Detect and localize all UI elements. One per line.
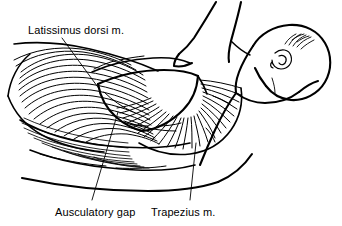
ear-inner [279, 55, 286, 64]
trapezius-label: Trapezius m. [151, 206, 215, 218]
anatomical-figure: Latissimus dorsi m. Ausculatory gap Trap… [0, 0, 342, 226]
leader-ausculatory [92, 112, 118, 200]
shoulder-upper-contour [236, 92, 299, 103]
jaw-neck-line [255, 68, 266, 86]
arm-posterior-edge [229, 2, 241, 62]
neck-shoulder-group [200, 46, 318, 165]
ear-outer [272, 50, 291, 69]
latissimus-dorsi-label: Latissimus dorsi m. [28, 24, 124, 36]
back-of-head-to-torso [299, 81, 318, 92]
hair-strokes [285, 34, 314, 49]
raised-arm-group [174, 2, 250, 66]
gap-inferior-edge [143, 76, 198, 131]
neck-posterior-contour [236, 46, 253, 93]
leader-latissimus [62, 38, 100, 90]
torso-inferior-contour [22, 178, 218, 191]
arm-anterior-edge [179, 2, 216, 54]
trapezius-group [117, 76, 242, 155]
cheek-contour-line [272, 78, 275, 93]
arm-inner-crease [231, 41, 250, 55]
head-group [253, 25, 330, 100]
torso-lower-group [22, 154, 252, 191]
latissimus-dorsi-group [8, 43, 195, 171]
leader-trapezius [190, 143, 196, 200]
ausculatory-gap-label: Ausculatory gap [55, 206, 135, 218]
torso-flank-to-hip [218, 154, 252, 182]
